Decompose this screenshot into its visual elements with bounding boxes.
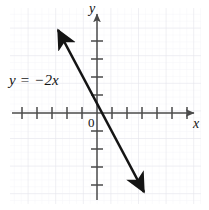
y-axis-label: y — [89, 2, 95, 16]
background-grid — [10, 8, 201, 204]
coordinate-plane — [0, 0, 209, 210]
x-axis-label: x — [193, 117, 199, 131]
origin-label: 0 — [88, 116, 95, 129]
graph-figure: y = −2x y x 0 — [0, 0, 209, 210]
equation-label: y = −2x — [9, 73, 59, 88]
